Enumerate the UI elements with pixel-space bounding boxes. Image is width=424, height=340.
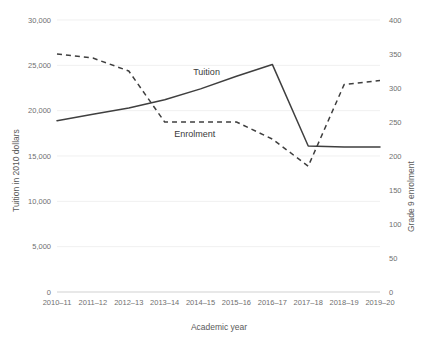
y2-axis-tick-labels: 050100150200250300350400 — [389, 16, 402, 297]
series-annotations: TuitionEnrolment — [174, 67, 220, 139]
x-axis-tick-labels: 2010–112011–122012–132013–142014–152015–… — [43, 298, 395, 307]
y2-axis-title: Grade 9 enrolment — [406, 160, 416, 232]
y-tick-label: 15,000 — [28, 152, 51, 161]
y2-tick-label: 50 — [389, 254, 397, 263]
y2-tick-label: 250 — [389, 118, 402, 127]
x-tick-label: 2019–20 — [365, 298, 394, 307]
y2-tick-label: 150 — [389, 186, 402, 195]
x-tick-label: 2011–12 — [79, 298, 108, 307]
y2-tick-label: 400 — [389, 16, 402, 25]
y-tick-label: 25,000 — [28, 61, 51, 70]
annotation-enrolment: Enrolment — [174, 129, 216, 139]
chart-container: 05,00010,00015,00020,00025,00030,000 050… — [0, 0, 424, 340]
annotation-tuition: Tuition — [193, 67, 220, 77]
y2-tick-label: 300 — [389, 84, 402, 93]
x-tick-label: 2010–11 — [43, 298, 72, 307]
y2-tick-label: 350 — [389, 50, 402, 59]
y-axis-tick-labels: 05,00010,00015,00020,00025,00030,000 — [28, 16, 51, 297]
y-tick-label: 20,000 — [28, 106, 51, 115]
x-axis-title: Academic year — [191, 322, 247, 332]
x-tick-label: 2014–15 — [186, 298, 215, 307]
y-tick-label: 30,000 — [28, 16, 51, 25]
y-tick-label: 10,000 — [28, 197, 51, 206]
y-tick-label: 5,000 — [32, 242, 51, 251]
y2-tick-label: 100 — [389, 220, 402, 229]
x-tick-label: 2018–19 — [330, 298, 359, 307]
y-tick-label: 0 — [47, 288, 51, 297]
line-chart: 05,00010,00015,00020,00025,00030,000 050… — [0, 0, 424, 340]
y2-tick-label: 0 — [389, 288, 393, 297]
x-tick-label: 2016–17 — [258, 298, 287, 307]
x-tick-label: 2017–18 — [294, 298, 323, 307]
x-tick-label: 2013–14 — [150, 298, 179, 307]
x-tick-label: 2015–16 — [222, 298, 251, 307]
gridlines — [57, 20, 380, 292]
y-axis-title: Tuition in 2010 dollars — [11, 129, 21, 212]
y2-tick-label: 200 — [389, 152, 402, 161]
x-tick-label: 2012–13 — [114, 298, 143, 307]
